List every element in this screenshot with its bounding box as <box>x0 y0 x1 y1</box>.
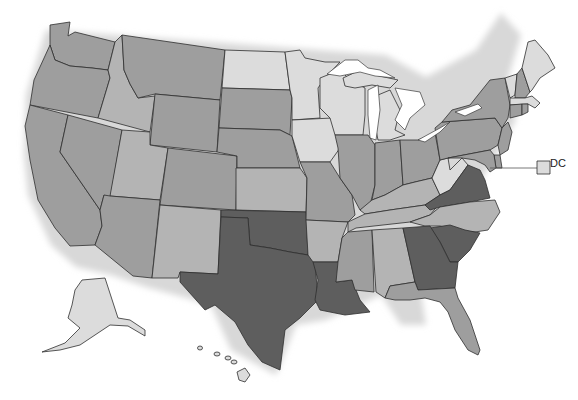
state-ks[interactable] <box>236 168 307 212</box>
state-hi-2[interactable] <box>214 352 220 356</box>
state-hi-5[interactable] <box>198 346 203 350</box>
state-nm[interactable] <box>152 205 221 278</box>
state-ak[interactable] <box>42 278 145 352</box>
state-wy[interactable] <box>150 94 220 152</box>
state-ri[interactable] <box>522 104 528 115</box>
state-hi-1[interactable] <box>237 368 250 382</box>
state-hi-4[interactable] <box>231 360 237 364</box>
state-nd[interactable] <box>222 50 290 90</box>
state-sd[interactable] <box>219 88 292 135</box>
state-co[interactable] <box>160 148 237 210</box>
us-choropleth-map <box>0 0 578 400</box>
state-hi-3[interactable] <box>225 356 231 360</box>
state-dc-box[interactable] <box>537 161 550 174</box>
state-ct[interactable] <box>510 104 522 118</box>
dc-label: DC <box>550 157 566 169</box>
